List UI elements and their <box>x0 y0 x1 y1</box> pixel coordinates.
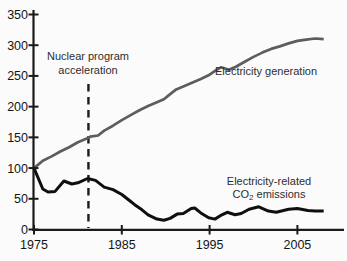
y-tick-label: 150 <box>7 131 28 145</box>
line-chart-figure: 0501001502002503003501975198519952005 Nu… <box>0 0 347 261</box>
emissions-label-line1: Electricity-related <box>220 175 318 188</box>
y-tick-label: 100 <box>7 162 28 176</box>
y-tick-label: 350 <box>7 8 28 22</box>
emissions-label-line2: CO2 emissions <box>220 188 318 204</box>
y-tick-label: 0 <box>21 223 28 237</box>
generation-series-label: Electricity generation <box>215 65 317 79</box>
emissions-label-co: CO <box>233 188 250 200</box>
x-tick-label: 1975 <box>20 238 48 252</box>
y-tick-label: 50 <box>14 192 28 206</box>
y-tick-label: 300 <box>7 39 28 53</box>
chart-canvas: 0501001502002503003501975198519952005 <box>0 0 347 261</box>
emissions-series-label: Electricity-related CO2 emissions <box>220 175 318 204</box>
x-tick-label: 1995 <box>196 238 224 252</box>
nuclear-annotation-line1: Nuclear program <box>36 50 140 64</box>
nuclear-program-annotation: Nuclear program acceleration <box>36 50 140 77</box>
x-tick-label: 1985 <box>108 238 136 252</box>
y-tick-label: 250 <box>7 69 28 83</box>
nuclear-annotation-line2: acceleration <box>36 64 140 78</box>
emissions-label-suffix: emissions <box>253 188 305 200</box>
y-tick-label: 200 <box>7 100 28 114</box>
x-tick-label: 2005 <box>283 238 311 252</box>
